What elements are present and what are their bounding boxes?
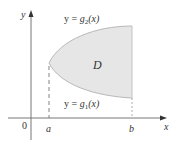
upper-curve-arg: (x) bbox=[88, 13, 99, 24]
region-diagram: y x 0 a b D y = g2(x) y = g1(x) bbox=[0, 0, 182, 148]
upper-curve-label: y = g2(x) bbox=[64, 14, 99, 26]
tick-label-a: a bbox=[46, 124, 51, 134]
lower-curve-label: y = g1(x) bbox=[64, 99, 99, 111]
lower-curve-arg: (x) bbox=[88, 98, 99, 109]
y-axis-arrow-icon bbox=[29, 10, 34, 17]
tick-label-b: b bbox=[129, 124, 134, 134]
lower-curve-prefix: y = bbox=[64, 98, 80, 109]
upper-curve-prefix: y = bbox=[64, 13, 80, 24]
region-d-shape bbox=[49, 26, 132, 98]
origin-label: 0 bbox=[22, 121, 27, 131]
region-label-d: D bbox=[93, 59, 102, 71]
x-axis-arrow-icon bbox=[160, 116, 167, 121]
x-axis-label: x bbox=[164, 122, 168, 132]
y-axis-label: y bbox=[21, 10, 25, 20]
